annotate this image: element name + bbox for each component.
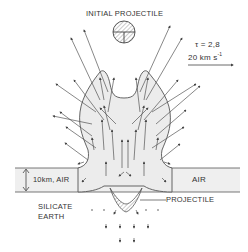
- velocity-scale-text: 20 km s: [188, 53, 217, 62]
- silicate-earth-label-2: EARTH: [38, 212, 64, 221]
- impact-diagram: INITIAL PROJECTILE τ = 2,8 20 km s-1 10k…: [0, 0, 248, 252]
- tau-label: τ = 2,8: [195, 40, 220, 49]
- projectile-label: PROJECTILE: [166, 195, 214, 204]
- air-layer-label: 10km, AIR: [33, 175, 69, 184]
- silicate-earth-label-1: SILICATE: [38, 202, 72, 211]
- velocity-scale-exponent: -1: [217, 51, 222, 57]
- initial-projectile-label: INITIAL PROJECTILE: [86, 9, 163, 18]
- air-right-label: AIR: [192, 175, 206, 184]
- ejecta-plume: [78, 71, 172, 192]
- velocity-scale-label: 20 km s-1: [188, 51, 222, 62]
- initial-projectile-icon: [113, 21, 135, 43]
